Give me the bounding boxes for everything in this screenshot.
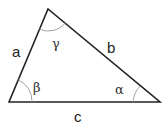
side-label-c: c (74, 108, 82, 125)
side-label-a: a (12, 43, 21, 60)
beta-arc (18, 80, 32, 102)
side-label-b: b (107, 39, 115, 56)
angle-label-gamma: γ (52, 36, 60, 51)
angle-label-alpha: α (115, 82, 124, 97)
triangle-diagram: a b c γ β α (0, 0, 168, 128)
angle-label-beta: β (33, 80, 41, 95)
triangle-shape (9, 9, 160, 102)
alpha-arc (133, 86, 140, 102)
gamma-arc (40, 22, 66, 31)
